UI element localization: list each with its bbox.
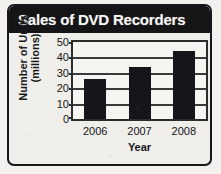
y-axis-tick-label: 50 [45,37,69,48]
y-axis-title: Number of Units (millions) [16,13,42,103]
y-axis-tick-mark [69,57,73,59]
y-axis-tick-mark [69,73,73,75]
plot-area [71,40,208,121]
bar [173,51,195,119]
y-axis-tick-label: 20 [45,83,69,94]
y-axis-tick-mark [69,42,73,44]
y-axis-tick-label: 0 [45,114,69,125]
y-axis-title-line-1: Number of Units [17,15,29,101]
y-axis-tick-mark [69,104,73,106]
x-axis-tick-labels: 200620072008 [71,125,208,141]
y-axis-tick-mark [69,117,73,119]
x-axis-tick-label: 2008 [172,125,196,137]
bar [129,67,151,119]
x-axis-title: Year [71,141,208,153]
x-axis-tick-label: 2006 [83,125,107,137]
y-axis-title-line-2: (millions) [29,34,41,83]
y-axis-tick-label: 30 [45,67,69,78]
y-axis-tick-labels: 50403020100 [45,33,69,125]
chart-card: Sales of DVD Recorders Number of Units (… [7,4,212,166]
y-axis-tick-mark [69,88,73,90]
y-axis-tick-label: 10 [45,98,69,109]
chart-title: Sales of DVD Recorders [18,11,185,28]
scanned-page: Sales of DVD Recorders Number of Units (… [0,0,221,174]
chart-body: Number of Units (millions) 50403020100 2… [9,33,210,166]
x-axis-tick-label: 2007 [127,125,151,137]
y-axis-tick-label: 40 [45,52,69,63]
bar [84,79,106,119]
